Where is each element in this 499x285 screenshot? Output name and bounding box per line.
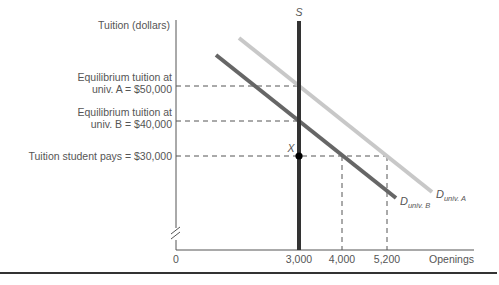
bottom-rule [0,272,497,274]
demand-univ-b-label: Duniv. B [400,195,430,210]
demand-curve-univ-a [239,38,432,192]
annotation-univ-b-line2: univ. B = $40,000 [91,118,172,130]
annotation-univ-a-line1: Equilibrium tuition at [77,71,172,83]
y-axis-label: Tuition (dollars) [98,19,170,31]
supply-label: S [295,6,302,18]
demand-univ-a-label: Duniv. A [436,188,466,203]
annotation-student-pays: Tuition student pays = $30,000 [28,150,172,162]
annotation-univ-a-line2: univ. A = $50,000 [92,83,172,95]
axis-break-icon [171,227,180,240]
chart: Tuition (dollars) S X Equilibrium tuitio… [0,0,499,285]
point-x-marker [295,152,302,159]
x-axis-label: Openings [429,253,474,265]
annotation-univ-b-line1: Equilibrium tuition at [77,106,172,118]
x-tick-5200: 5,200 [374,253,400,265]
x-tick-4000: 4,000 [329,253,355,265]
x-tick-3000: 3,000 [286,253,312,265]
point-x-label: X [286,142,295,154]
demand-curve-univ-b [216,55,396,198]
x-tick-0: 0 [173,253,179,265]
